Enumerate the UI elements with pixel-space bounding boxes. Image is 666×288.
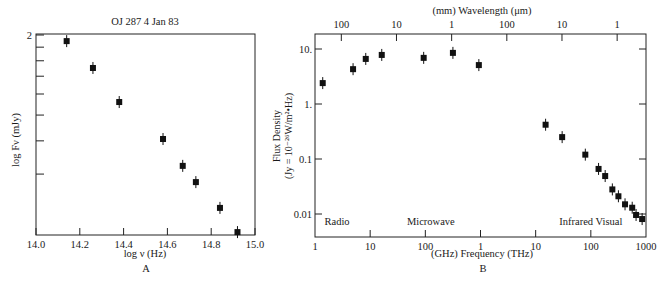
top-tick-label: 1 bbox=[449, 19, 454, 30]
chart-b-region-labels: RadioMicrowaveInfrared Visual bbox=[325, 216, 623, 227]
chart-b-y-label-line2: (Jy = 10⁻²⁶W/m²•Hz) bbox=[283, 93, 295, 179]
data-point bbox=[160, 133, 166, 145]
data-point bbox=[116, 96, 122, 108]
data-marker bbox=[450, 50, 456, 56]
x-tick-label: 14.2 bbox=[71, 239, 89, 250]
data-marker bbox=[615, 193, 621, 199]
data-point bbox=[234, 226, 240, 238]
y-tick-label: 10. bbox=[299, 44, 312, 55]
data-point bbox=[476, 59, 482, 71]
top-tick-label: 100 bbox=[333, 19, 349, 30]
region-label: Radio bbox=[325, 216, 350, 227]
data-marker bbox=[350, 66, 356, 72]
data-point bbox=[180, 160, 186, 172]
data-point bbox=[193, 176, 199, 188]
data-point bbox=[379, 49, 385, 61]
chart-a-x-ticks: 14.014.214.414.614.815.0 bbox=[27, 228, 264, 250]
chart-b-top-ticks: 100101100101 bbox=[333, 19, 619, 41]
chart-a-panel-label: A bbox=[142, 263, 150, 274]
data-point bbox=[639, 213, 645, 225]
data-marker bbox=[421, 55, 427, 61]
region-label: Infrared Visual bbox=[559, 216, 622, 227]
data-point bbox=[622, 198, 628, 210]
y-tick-label: 1. bbox=[304, 99, 312, 110]
data-marker bbox=[116, 99, 122, 105]
x-tick-label: 14.0 bbox=[27, 239, 45, 250]
y-tick-label: 0.1 bbox=[299, 154, 312, 165]
data-marker bbox=[543, 122, 549, 128]
chart-a-y-ticks: 2 bbox=[27, 30, 44, 174]
data-point bbox=[615, 190, 621, 202]
data-point bbox=[596, 163, 602, 175]
data-marker bbox=[217, 205, 223, 211]
data-marker bbox=[363, 56, 369, 62]
data-marker bbox=[180, 163, 186, 169]
data-point bbox=[582, 149, 588, 161]
chart-a-title: OJ 287 4 Jan 83 bbox=[111, 16, 179, 27]
data-marker bbox=[90, 65, 96, 71]
chart-b-panel-label: B bbox=[479, 263, 486, 274]
x-tick-label: 1 bbox=[312, 241, 317, 252]
chart-a-y-label: log Fν (mJy) bbox=[10, 113, 22, 167]
data-point bbox=[90, 62, 96, 74]
data-marker bbox=[582, 152, 588, 158]
chart-b-y-label-line1: Flux Density bbox=[271, 110, 282, 162]
data-marker bbox=[633, 212, 639, 218]
x-tick-label: 1000 bbox=[636, 241, 657, 252]
data-point bbox=[543, 119, 549, 131]
data-point bbox=[320, 77, 326, 89]
x-tick-label: 10 bbox=[365, 241, 376, 252]
data-marker bbox=[629, 205, 635, 211]
top-tick-label: 10 bbox=[557, 19, 568, 30]
data-marker bbox=[602, 173, 608, 179]
data-marker bbox=[622, 201, 628, 207]
data-marker bbox=[64, 38, 70, 44]
chart-b-top-axis-label: (mm) Wavelength (μm) bbox=[432, 5, 532, 17]
figure-canvas: OJ 287 4 Jan 83 2 14.014.214.414.614.815… bbox=[0, 0, 666, 288]
data-marker bbox=[160, 136, 166, 142]
data-marker bbox=[320, 80, 326, 86]
chart-a-plot-frame bbox=[36, 34, 255, 235]
y-tick-label: 2 bbox=[27, 30, 32, 41]
data-point bbox=[633, 209, 639, 221]
chart-b: (mm) Wavelength (μm) 100101100101 10.1.0… bbox=[271, 5, 657, 274]
top-tick-label: 100 bbox=[499, 19, 515, 30]
data-marker bbox=[379, 52, 385, 58]
x-tick-label: 100 bbox=[583, 241, 599, 252]
x-tick-label: 14.8 bbox=[202, 239, 220, 250]
data-marker bbox=[234, 229, 240, 235]
data-point bbox=[421, 52, 427, 64]
data-point bbox=[629, 202, 635, 214]
data-marker bbox=[476, 62, 482, 68]
chart-a-data-points bbox=[64, 35, 241, 238]
data-marker bbox=[559, 134, 565, 140]
chart-a: OJ 287 4 Jan 83 2 14.014.214.414.614.815… bbox=[10, 16, 264, 274]
chart-b-data-points bbox=[320, 47, 645, 225]
data-point bbox=[602, 170, 608, 182]
data-point bbox=[350, 63, 356, 75]
data-marker bbox=[639, 216, 645, 222]
data-marker bbox=[609, 186, 615, 192]
data-point bbox=[217, 202, 223, 214]
region-label: Microwave bbox=[407, 216, 455, 227]
chart-b-x-label: (GHz) Frequency (THz) bbox=[431, 248, 534, 260]
data-point bbox=[450, 47, 456, 59]
data-point bbox=[559, 131, 565, 143]
y-tick-label: 0.01 bbox=[294, 209, 312, 220]
data-point bbox=[609, 183, 615, 195]
top-tick-label: 1 bbox=[615, 19, 620, 30]
data-point bbox=[363, 53, 369, 65]
chart-a-x-label: log ν (Hz) bbox=[124, 248, 167, 260]
data-marker bbox=[596, 166, 602, 172]
data-point bbox=[64, 35, 70, 47]
top-tick-label: 10 bbox=[391, 19, 402, 30]
chart-b-y-ticks: 10.1.0.10.01 bbox=[294, 44, 646, 220]
data-marker bbox=[193, 179, 199, 185]
x-tick-label: 15.0 bbox=[246, 239, 264, 250]
